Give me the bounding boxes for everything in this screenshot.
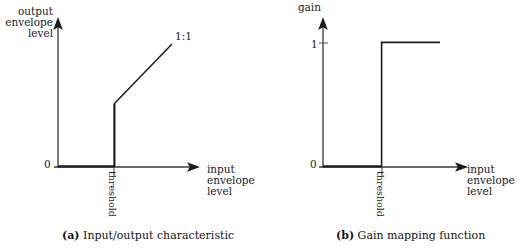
- caption-b-label: (b): [336, 229, 354, 242]
- x-axis-label-a: input envelope level: [207, 164, 267, 198]
- y-tick-label-zero-a: 0: [44, 158, 51, 170]
- caption-b-text: Gain mapping function: [358, 229, 486, 242]
- panel-gain-mapping-function: gain input envelope level 0 1 threshold …: [260, 0, 520, 250]
- curve-unity-slope-a: [114, 44, 172, 104]
- caption-b: (b) Gain mapping function: [336, 229, 485, 242]
- figure-container: output envelope level input envelope lev…: [0, 0, 520, 250]
- y-tick-label-zero-b: 0: [310, 158, 317, 170]
- curve-label-ratio-a: 1:1: [175, 30, 192, 42]
- caption-a-text: Input/output characteristic: [83, 229, 234, 242]
- panel-input-output-characteristic: output envelope level input envelope lev…: [0, 0, 260, 250]
- caption-a: (a) Input/output characteristic: [62, 229, 234, 242]
- x-tick-label-threshold-b: threshold: [375, 171, 386, 217]
- y-axis-label-b: gain: [294, 2, 321, 13]
- x-axis-label-b: input envelope level: [467, 164, 520, 198]
- curve-step-b: [382, 42, 440, 167]
- x-tick-label-threshold-a: threshold: [107, 171, 118, 217]
- y-tick-label-one-b: 1: [311, 38, 318, 50]
- y-axis-label-a: output envelope level: [0, 6, 53, 40]
- caption-a-label: (a): [62, 229, 80, 242]
